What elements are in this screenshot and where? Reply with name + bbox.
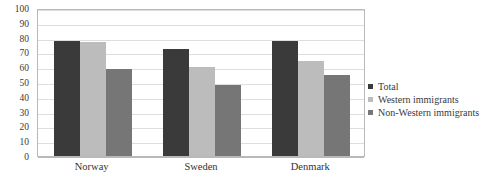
bar <box>324 75 350 156</box>
legend-swatch-icon <box>368 84 373 89</box>
y-axis-tick-label: 70 <box>20 48 30 58</box>
bar <box>54 41 80 156</box>
y-axis-tick-label: 100 <box>15 4 29 14</box>
plot-area <box>37 9 365 157</box>
bar-chart: 1009080706050403020100 NorwaySwedenDenma… <box>0 0 498 195</box>
bar <box>80 42 106 156</box>
y-axis-tick-label: 50 <box>20 78 30 88</box>
bar <box>106 69 132 156</box>
legend-label: Non-Western immigrants <box>378 107 479 119</box>
legend-item: Western immigrants <box>368 93 496 106</box>
y-axis-tick-label: 20 <box>20 122 30 132</box>
legend-label: Total <box>378 81 398 93</box>
x-axis-category-label: Norway <box>75 161 109 173</box>
y-axis-tick-label: 0 <box>24 152 29 162</box>
legend-item: Non-Western immigrants <box>368 106 496 119</box>
bar <box>163 49 189 156</box>
y-axis-tick-label: 80 <box>20 34 30 44</box>
bar <box>215 85 241 156</box>
x-axis-category-labels: NorwaySwedenDenmark <box>37 158 365 178</box>
bar <box>272 41 298 156</box>
legend-swatch-icon <box>368 97 373 102</box>
chart-legend: TotalWestern immigrantsNon-Western immig… <box>368 80 496 119</box>
legend-label: Western immigrants <box>378 94 459 106</box>
y-axis-tick-label: 60 <box>20 63 30 73</box>
y-axis-tick-label: 30 <box>20 108 30 118</box>
bars-layer <box>38 10 364 156</box>
y-axis-tick-label: 40 <box>20 93 30 103</box>
x-axis-category-label: Sweden <box>184 161 217 173</box>
y-axis-tick-label: 90 <box>20 19 30 29</box>
bar <box>189 67 215 156</box>
legend-swatch-icon <box>368 110 373 115</box>
legend-item: Total <box>368 80 496 93</box>
bar <box>298 61 324 156</box>
x-axis-category-label: Denmark <box>291 161 330 173</box>
y-axis: 1009080706050403020100 <box>0 9 33 157</box>
y-axis-tick-label: 10 <box>20 137 30 147</box>
